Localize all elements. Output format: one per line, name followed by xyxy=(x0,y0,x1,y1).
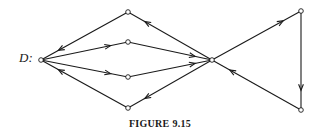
edge-bottom-to-d xyxy=(41,60,128,108)
nodes xyxy=(39,9,304,113)
node-upper-mid xyxy=(126,40,131,45)
node-center xyxy=(210,58,215,63)
node-d xyxy=(39,58,44,63)
arrowheads xyxy=(58,21,303,99)
node-bottom-right xyxy=(299,108,304,113)
edges xyxy=(41,11,301,110)
node-top xyxy=(126,10,131,15)
edge-upper-mid-to-center xyxy=(128,42,212,60)
edge-lower-mid-to-center xyxy=(128,60,212,77)
figure-caption: FIGURE 9.15 xyxy=(0,118,320,129)
edge-bottom-right-to-center xyxy=(212,60,301,110)
edge-center-to-top xyxy=(128,12,212,60)
edge-d-to-lower-mid xyxy=(41,60,128,77)
graph-label: D: xyxy=(19,50,33,66)
edge-center-to-bottom xyxy=(128,60,212,108)
edge-center-to-top-right xyxy=(212,11,301,60)
edge-d-to-upper-mid xyxy=(41,42,128,60)
edge-top-to-d xyxy=(41,12,128,60)
node-bottom xyxy=(126,106,131,111)
node-top-right xyxy=(299,9,304,14)
node-lower-mid xyxy=(126,75,131,80)
directed-graph xyxy=(0,0,320,135)
